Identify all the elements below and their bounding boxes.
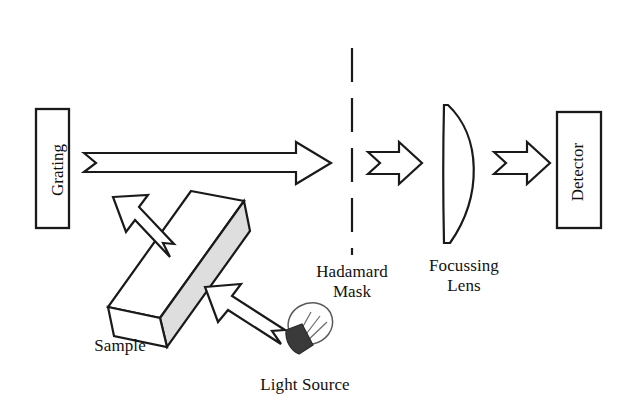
mask-to-lens-beam-arrow [368, 142, 422, 184]
source-to-sample-beam-arrow [205, 284, 285, 344]
focussing-lens-shape [443, 105, 474, 243]
focussing-lens-label: Focussing Lens [404, 256, 524, 296]
diagram-canvas [0, 0, 642, 420]
light-bulb-icon [286, 303, 333, 354]
lens-to-detector-beam-arrow [494, 142, 550, 184]
grating-label: Grating [48, 120, 68, 220]
light-source-label: Light Source [225, 375, 385, 395]
sample-label: Sample [65, 336, 175, 356]
optical-diagram: Grating Detector Hadamard Mask Focussing… [0, 0, 642, 420]
focussing-lens-label-line2: Lens [404, 276, 524, 296]
hadamard-mask-label: Hadamard Mask [292, 262, 412, 302]
hadamard-mask-label-line2: Mask [292, 282, 412, 302]
detector-label: Detector [568, 127, 588, 217]
grating-to-mask-beam-arrow [84, 142, 331, 184]
hadamard-mask-label-line1: Hadamard [292, 262, 412, 282]
focussing-lens-label-line1: Focussing [404, 256, 524, 276]
